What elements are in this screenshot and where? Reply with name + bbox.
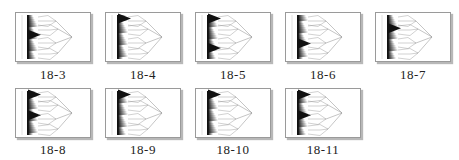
tree-diagram-thumbnail	[15, 88, 91, 138]
tree-diagram-thumbnail	[195, 12, 271, 62]
panel-label: 18-10	[195, 142, 271, 158]
panel-label: 18-3	[15, 67, 91, 83]
tree-diagram-thumbnail	[105, 12, 181, 62]
panel-label: 18-11	[285, 142, 361, 158]
tree-diagram-thumbnail	[15, 12, 91, 62]
tree-diagram-thumbnail	[105, 88, 181, 138]
panel-label: 18-8	[15, 142, 91, 158]
panel-label: 18-5	[195, 67, 271, 83]
panel-label: 18-7	[375, 67, 451, 83]
panel-label: 18-9	[105, 142, 181, 158]
tree-diagram-thumbnail	[285, 12, 361, 62]
tree-diagram-thumbnail	[285, 88, 361, 138]
tree-diagram-thumbnail	[195, 88, 271, 138]
tree-diagram-thumbnail	[375, 12, 451, 62]
panel-label: 18-4	[105, 67, 181, 83]
panel-label: 18-6	[285, 67, 361, 83]
